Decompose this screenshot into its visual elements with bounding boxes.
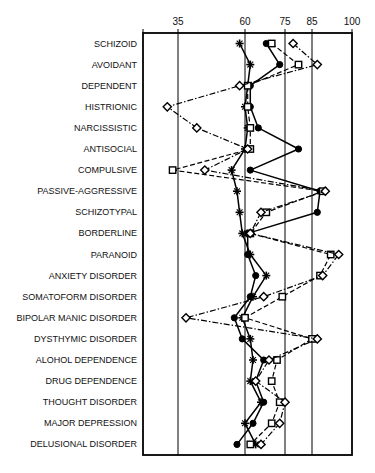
data-point-plus-8[interactable] [236, 208, 244, 216]
data-point-filled-circle-18[interactable] [250, 420, 256, 426]
category-label-dependent: DEPENDENT [81, 81, 137, 91]
axis-tick-labels: 35607585100 [172, 16, 360, 27]
category-label-delusional-disorder: DELUSIONAL DISORDER [30, 439, 137, 449]
x-tick-label-100: 100 [344, 16, 361, 27]
series-plus [228, 40, 271, 449]
data-point-filled-circle-5[interactable] [295, 146, 301, 152]
category-label-paranoid: PARANOID [91, 250, 138, 260]
data-point-filled-circle-6[interactable] [247, 167, 253, 173]
data-point-open-diamond-13[interactable] [182, 314, 190, 322]
data-point-open-square-12[interactable] [279, 294, 285, 300]
data-point-plus-0[interactable] [236, 40, 244, 48]
data-point-plus-7[interactable] [233, 187, 241, 195]
data-point-open-diamond-12[interactable] [260, 293, 268, 301]
category-label-borderline: BORDERLINE [78, 228, 137, 238]
category-label-major-depression: MAJOR DEPRESSION [44, 418, 137, 428]
data-point-filled-circle-4[interactable] [255, 125, 261, 131]
data-point-filled-circle-8[interactable] [314, 209, 320, 215]
category-label-anxiety-disorder: ANXIETY DISORDER [49, 271, 138, 281]
data-point-plus-1[interactable] [246, 61, 254, 69]
data-point-filled-circle-13[interactable] [231, 315, 237, 321]
series-line-open-diamond [167, 44, 338, 445]
data-point-open-square-19[interactable] [247, 441, 253, 447]
data-point-open-square-13[interactable] [242, 315, 248, 321]
category-label-passive-aggressive: PASSIVE-AGGRESSIVE [37, 186, 137, 196]
x-tick-label-60: 60 [239, 16, 251, 27]
data-point-open-square-3[interactable] [245, 104, 251, 110]
x-tick-label-85: 85 [306, 16, 318, 27]
data-point-plus-14[interactable] [246, 335, 254, 343]
category-label-drug-dependence: DRUG DEPENDENCE [45, 376, 137, 386]
data-point-plus-6[interactable] [228, 166, 236, 174]
category-label-schizoid: SCHIZOID [94, 39, 138, 49]
category-label-narcissistic: NARCISSISTIC [74, 123, 138, 133]
data-point-open-square-4[interactable] [247, 125, 253, 131]
category-label-thought-disorder: THOUGHT DISORDER [43, 397, 138, 407]
data-point-filled-circle-11[interactable] [253, 273, 259, 279]
data-point-open-diamond-4[interactable] [193, 124, 201, 132]
data-point-plus-15[interactable] [249, 356, 257, 364]
category-label-alohol-dependence: ALOHOL DEPENDENCE [36, 355, 137, 365]
data-point-filled-circle-10[interactable] [245, 251, 251, 257]
category-labels: SCHIZOIDAVOIDANTDEPENDENTHISTRIONICNARCI… [16, 39, 137, 450]
data-point-open-diamond-15[interactable] [265, 356, 273, 364]
category-label-bipolar-manic-disorder: BIPOLAR MANIC DISORDER [16, 313, 137, 323]
data-point-plus-18[interactable] [241, 419, 249, 427]
x-tick-label-75: 75 [279, 16, 291, 27]
data-point-open-diamond-6[interactable] [201, 166, 209, 174]
chart-container: 35607585100SCHIZOIDAVOIDANTDEPENDENTHIST… [0, 0, 375, 473]
data-point-filled-circle-1[interactable] [277, 62, 283, 68]
series-open-square [169, 40, 334, 447]
data-point-filled-circle-14[interactable] [239, 336, 245, 342]
data-point-filled-circle-19[interactable] [234, 441, 240, 447]
data-point-open-square-18[interactable] [269, 420, 275, 426]
data-point-open-square-6[interactable] [169, 167, 175, 173]
category-label-compulsive: COMPULSIVE [78, 165, 137, 175]
data-point-open-diamond-2[interactable] [236, 82, 244, 90]
data-point-open-square-1[interactable] [295, 61, 301, 67]
data-point-open-square-0[interactable] [269, 40, 275, 46]
data-point-open-diamond-3[interactable] [163, 103, 171, 111]
x-tick-label-35: 35 [172, 16, 184, 27]
data-point-open-square-16[interactable] [269, 378, 275, 384]
data-point-filled-circle-12[interactable] [247, 294, 253, 300]
category-label-somatoform-disorder: SOMATOFORM DISORDER [22, 292, 137, 302]
category-label-dysthymic-disorder: DYSTHYMIC DISORDER [34, 334, 138, 344]
category-label-avoidant: AVOIDANT [92, 60, 138, 70]
category-label-antisocial: ANTISOCIAL [83, 144, 137, 154]
category-label-histrionic: HISTRIONIC [85, 102, 138, 112]
data-point-plus-11[interactable] [262, 272, 270, 280]
data-point-filled-circle-17[interactable] [261, 399, 267, 405]
profile-line-chart: 35607585100SCHIZOIDAVOIDANTDEPENDENTHIST… [0, 0, 375, 473]
category-label-schizotypal: SCHIZOTYPAL [75, 207, 137, 217]
